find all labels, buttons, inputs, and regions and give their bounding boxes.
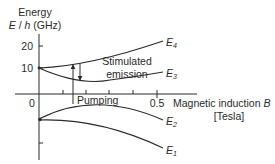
label-e3: E3 [166, 67, 177, 80]
degenerate-dot [38, 67, 41, 70]
energy-level-diagram: Energy E / h (GHz) 20 10 0 0.5 Magnetic … [0, 0, 275, 164]
y-tick-label-0: 0 [29, 97, 35, 109]
x-axis-title: Magnetic induction B [173, 97, 271, 109]
label-e1: E1 [166, 144, 177, 157]
y-axis-title: Energy [18, 6, 52, 18]
label-e4: E4 [166, 36, 177, 49]
origin-dot [38, 118, 42, 122]
x-tick-label-0-5: 0.5 [150, 97, 165, 109]
curve-e1 [39, 120, 163, 148]
pumping-label: Pumping [77, 94, 119, 106]
stimulated-label-1: Stimulated [102, 55, 152, 67]
y-tick-label-20: 20 [21, 40, 33, 52]
x-axis-unit: [Tesla] [214, 110, 244, 122]
y-tick-label-10: 10 [21, 62, 33, 74]
stimulated-label-2: emission [106, 68, 148, 80]
label-e2: E2 [166, 115, 177, 128]
y-axis-unit: E / h (GHz) [9, 19, 62, 31]
curve-e2 [39, 105, 163, 120]
